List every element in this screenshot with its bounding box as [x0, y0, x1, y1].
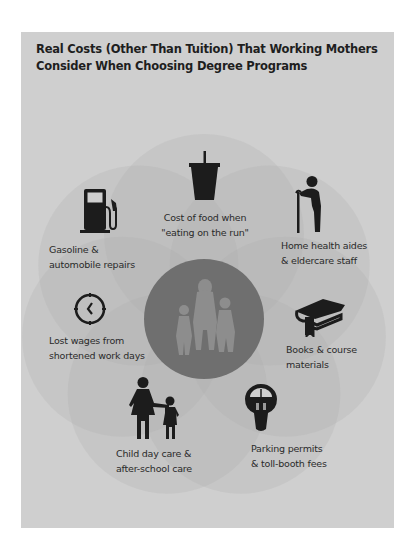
mother-child-icon: [129, 377, 183, 441]
label-wages: Lost wages from shortened work days: [49, 334, 145, 363]
label-parking: Parking permits & toll-booth fees: [251, 442, 327, 471]
label-food: Cost of food when "eating on the run": [155, 211, 255, 240]
label-childcare: Child day care & after-school care: [116, 447, 192, 476]
parking-meter-icon: [244, 383, 278, 433]
drink-cup-icon: [187, 151, 223, 201]
label-gasoline: Gasoline & automobile repairs: [49, 243, 135, 272]
elderly-person-cane-icon: [293, 176, 327, 234]
title-line-1: Real Costs (Other Than Tuition) That Wor…: [36, 41, 376, 58]
page-title: Real Costs (Other Than Tuition) That Wor…: [36, 41, 376, 75]
clock-icon: [73, 292, 107, 326]
gas-pump-icon: [80, 189, 120, 235]
petal-diagram: [0, 0, 418, 554]
title-line-2: Consider When Choosing Degree Programs: [36, 58, 376, 75]
label-eldercare: Home health aides & eldercare staff: [281, 239, 367, 268]
label-books: Books & course materials: [286, 343, 357, 372]
book-graduation-cap-icon: [293, 297, 347, 337]
